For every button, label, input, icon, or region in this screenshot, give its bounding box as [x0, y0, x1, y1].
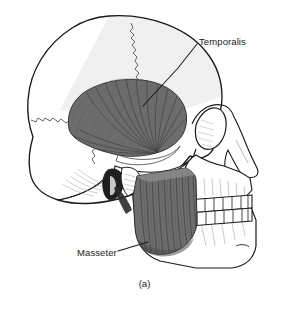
figure-caption: (a)	[0, 278, 289, 289]
label-temporalis: Temporalis	[199, 36, 246, 47]
anatomy-figure: Temporalis Masseter (a)	[0, 0, 289, 311]
label-masseter: Masseter	[77, 247, 117, 258]
